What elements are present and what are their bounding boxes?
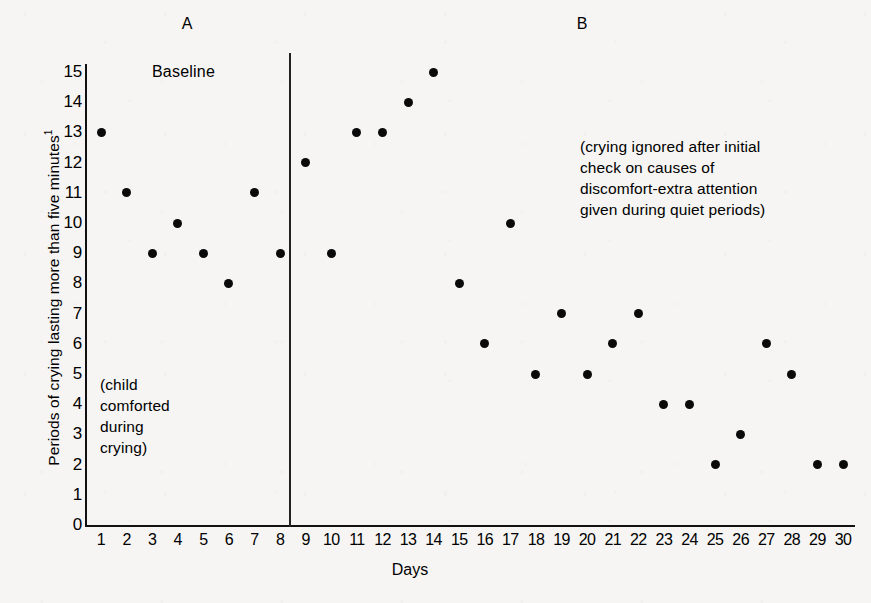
- x-tick-label: 16: [472, 531, 498, 549]
- x-tick-label: 14: [421, 531, 447, 549]
- data-point: [583, 370, 592, 379]
- x-tick-label: 21: [600, 531, 626, 549]
- data-point: [634, 309, 643, 318]
- data-point: [506, 219, 515, 228]
- data-point: [352, 128, 361, 137]
- y-tick-label: 6: [48, 335, 82, 352]
- x-tick-label: 9: [293, 531, 319, 549]
- data-point: [148, 249, 157, 258]
- baseline-phase-label: Baseline: [152, 63, 215, 81]
- x-tick-label: 5: [190, 531, 216, 549]
- x-tick-label: 4: [165, 531, 191, 549]
- x-axis-line: [85, 525, 855, 527]
- x-tick-label: 27: [753, 531, 779, 549]
- x-tick-label: 12: [369, 531, 395, 549]
- data-point: [429, 68, 438, 77]
- y-axis-tick-labels: 1514131211109876543210: [40, 0, 82, 603]
- x-tick-label: 26: [728, 531, 754, 549]
- data-point: [224, 279, 233, 288]
- y-tick-label: 7: [48, 305, 82, 322]
- x-tick-label: 11: [344, 531, 370, 549]
- phase-divider-line: [289, 53, 291, 527]
- x-tick-label: 24: [676, 531, 702, 549]
- y-tick-label: 12: [48, 154, 82, 171]
- x-tick-label: 30: [830, 531, 856, 549]
- y-tick-label: 9: [48, 244, 82, 261]
- data-point: [276, 249, 285, 258]
- x-tick-label: 23: [651, 531, 677, 549]
- x-tick-label: 7: [242, 531, 268, 549]
- y-tick-label: 1: [48, 486, 82, 503]
- annotation-phase-b: (crying ignored after initial check on c…: [580, 136, 870, 220]
- data-point: [736, 430, 745, 439]
- x-tick-label: 22: [625, 531, 651, 549]
- x-tick-label: 18: [523, 531, 549, 549]
- x-tick-label: 25: [702, 531, 728, 549]
- x-axis-title: Days: [330, 561, 490, 579]
- x-tick-label: 8: [267, 531, 293, 549]
- y-tick-label: 4: [48, 395, 82, 412]
- y-tick-label: 14: [48, 93, 82, 110]
- data-point: [839, 460, 848, 469]
- data-point: [327, 249, 336, 258]
- y-tick-label: 0: [48, 516, 82, 533]
- data-point: [480, 339, 489, 348]
- x-tick-label: 1: [88, 531, 114, 549]
- figure-canvas: A B Periods of crying lasting more than …: [0, 0, 871, 603]
- data-point: [455, 279, 464, 288]
- data-point: [787, 370, 796, 379]
- y-tick-label: 5: [48, 365, 82, 382]
- x-tick-label: 17: [497, 531, 523, 549]
- data-point: [122, 188, 131, 197]
- data-point: [173, 219, 182, 228]
- y-tick-label: 2: [48, 456, 82, 473]
- data-point: [659, 400, 668, 409]
- data-point: [97, 128, 106, 137]
- data-point: [762, 339, 771, 348]
- data-point: [404, 98, 413, 107]
- x-tick-label: 6: [216, 531, 242, 549]
- x-tick-label: 19: [549, 531, 575, 549]
- panel-label-b: B: [570, 15, 594, 33]
- y-tick-label: 10: [48, 214, 82, 231]
- y-tick-label: 8: [48, 274, 82, 291]
- data-point: [685, 400, 694, 409]
- data-point: [711, 460, 720, 469]
- data-point: [557, 309, 566, 318]
- y-axis-line: [85, 64, 87, 526]
- y-tick-label: 15: [48, 63, 82, 80]
- annotation-phase-a: (child comforted during crying): [100, 374, 250, 458]
- data-point: [250, 188, 259, 197]
- x-tick-label: 3: [139, 531, 165, 549]
- data-point: [301, 158, 310, 167]
- data-point: [813, 460, 822, 469]
- x-tick-label: 20: [574, 531, 600, 549]
- data-point: [531, 370, 540, 379]
- x-tick-label: 10: [318, 531, 344, 549]
- panel-label-a: A: [175, 15, 199, 33]
- paper-texture: [0, 0, 871, 603]
- data-point: [378, 128, 387, 137]
- y-tick-label: 11: [48, 184, 82, 201]
- data-point: [199, 249, 208, 258]
- x-tick-label: 15: [446, 531, 472, 549]
- x-tick-label: 28: [779, 531, 805, 549]
- data-point: [608, 339, 617, 348]
- x-tick-label: 2: [114, 531, 140, 549]
- y-tick-label: 3: [48, 425, 82, 442]
- x-tick-label: 13: [395, 531, 421, 549]
- y-tick-label: 13: [48, 123, 82, 140]
- x-tick-label: 29: [804, 531, 830, 549]
